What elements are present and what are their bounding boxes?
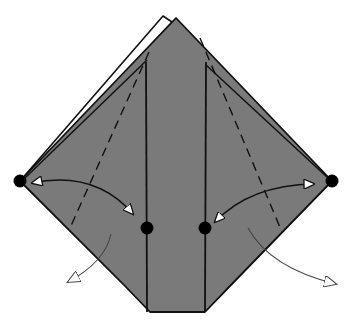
left-center-crease (146, 62, 147, 312)
right-center-crease (205, 62, 206, 312)
origami-diagram (0, 0, 354, 325)
right-corner-dot (326, 175, 339, 188)
right-center-dot (199, 222, 212, 235)
left-corner-dot (14, 175, 27, 188)
paper-body (20, 18, 332, 312)
left-center-dot (141, 222, 154, 235)
origami-diagram-svg (0, 0, 354, 325)
